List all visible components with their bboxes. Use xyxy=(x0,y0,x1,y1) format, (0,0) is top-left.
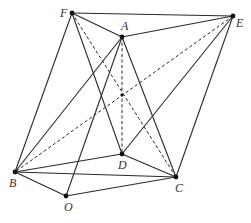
segment-bc xyxy=(15,172,176,177)
segment-bd xyxy=(15,154,122,172)
segment-ed xyxy=(122,16,233,154)
label-f: F xyxy=(59,6,68,20)
segment-ae xyxy=(122,16,233,37)
point-b xyxy=(13,170,18,175)
labels-group: FAEBODC xyxy=(9,6,244,214)
point-c xyxy=(174,175,179,180)
point-f xyxy=(70,11,75,16)
label-a: A xyxy=(120,19,129,33)
label-o: O xyxy=(64,200,73,214)
segment-ao xyxy=(66,37,122,196)
point-x xyxy=(120,93,123,96)
point-o xyxy=(64,194,69,199)
label-c: C xyxy=(175,181,184,195)
segment-oc xyxy=(66,177,176,196)
label-b: B xyxy=(9,176,17,190)
segment-ec xyxy=(176,16,233,177)
label-d: D xyxy=(117,158,127,172)
geometry-diagram: FAEBODC xyxy=(0,0,251,223)
point-e xyxy=(231,14,236,19)
point-d xyxy=(120,152,125,157)
segment-bo xyxy=(15,172,66,196)
segment-fd xyxy=(72,13,122,154)
segment-fb xyxy=(15,13,72,172)
point-a xyxy=(120,35,125,40)
label-e: E xyxy=(235,16,244,30)
segment-ab xyxy=(15,37,122,172)
segment-fe xyxy=(72,13,233,16)
segment-eb xyxy=(15,16,233,172)
segment-ac xyxy=(122,37,176,177)
